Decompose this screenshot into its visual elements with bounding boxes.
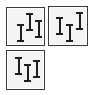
i-beam-bar-icon (33, 60, 40, 78)
i-beam-bar-icon (56, 17, 63, 35)
i-beam-bar-icon (24, 64, 31, 82)
i-beam-bar-icon (76, 12, 83, 30)
align-variant-3-button[interactable] (6, 50, 45, 90)
i-beam-bar-icon (26, 13, 33, 31)
i-beam-bar-icon (35, 20, 42, 38)
i-beam-bar-icon (15, 57, 22, 75)
align-variant-2-button[interactable] (48, 6, 88, 46)
i-beam-bar-icon (17, 24, 24, 42)
align-variant-1-button[interactable] (6, 7, 45, 46)
i-beam-bar-icon (66, 24, 73, 42)
